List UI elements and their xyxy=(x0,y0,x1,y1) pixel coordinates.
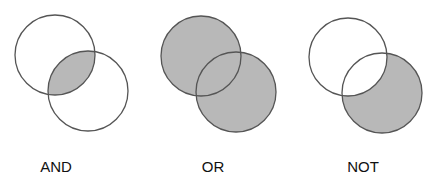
and-venn xyxy=(15,15,128,131)
not-venn xyxy=(309,18,422,133)
and-label: AND xyxy=(40,158,72,175)
or-label: OR xyxy=(202,158,225,175)
or-venn xyxy=(161,16,276,132)
not-label: NOT xyxy=(347,158,379,175)
venn-diagrams xyxy=(0,0,430,183)
